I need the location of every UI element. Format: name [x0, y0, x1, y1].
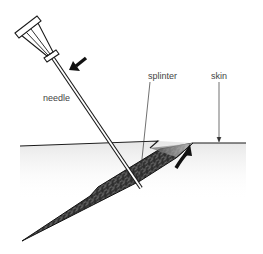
push-arrow-icon [69, 58, 86, 71]
skin-pointer-icon [217, 82, 221, 142]
needle-label: needle [43, 94, 70, 103]
splinter-label: splinter [148, 72, 177, 81]
skin-label: skin [211, 72, 227, 81]
splinter-diagram [0, 0, 263, 254]
